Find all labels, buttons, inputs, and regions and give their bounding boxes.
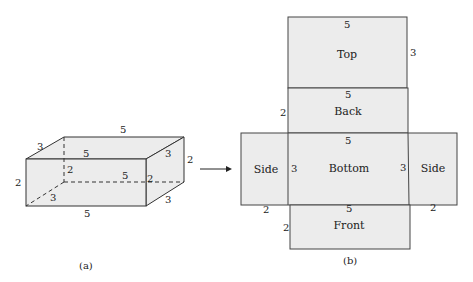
dim-label: 3 (410, 47, 416, 58)
dim-label: 2 (147, 173, 153, 184)
dim-label: 5 (122, 170, 128, 181)
face-label-side-right: Side (421, 162, 446, 175)
dim-label: 2 (187, 154, 193, 165)
dim-label: 3 (291, 163, 297, 174)
caption-a: (a) (79, 260, 93, 271)
face-label-top: Top (337, 48, 357, 61)
dim-label: 5 (84, 208, 90, 219)
dim-label: 5 (346, 203, 352, 214)
dim-label: 2 (67, 164, 73, 175)
dim-label: 5 (120, 124, 126, 135)
dim-label: 3 (165, 148, 171, 159)
face-label-side-left: Side (254, 163, 279, 176)
dim-label: 2 (283, 222, 289, 233)
dim-label: 5 (83, 148, 89, 159)
dim-label: 3 (400, 162, 406, 173)
right-arrow-icon (200, 166, 232, 172)
face-label-bottom: Bottom (329, 162, 370, 175)
box-and-net-diagram: 5 3 5 3 2 2 2 5 2 3 3 5 (a) Top Back Bot… (0, 0, 473, 282)
dim-label: 2 (15, 177, 21, 188)
face-label-back: Back (334, 105, 362, 118)
dim-label: 3 (50, 192, 56, 203)
dim-label: 2 (263, 204, 269, 215)
dim-label: 2 (280, 107, 286, 118)
dim-label: 5 (344, 19, 350, 30)
caption-b: (b) (343, 255, 357, 266)
dim-label: 5 (345, 89, 351, 100)
dim-label: 2 (430, 202, 436, 213)
dim-label: 5 (345, 135, 351, 146)
face-label-front: Front (333, 219, 365, 232)
dim-label: 3 (165, 194, 171, 205)
dim-label: 3 (37, 141, 43, 152)
